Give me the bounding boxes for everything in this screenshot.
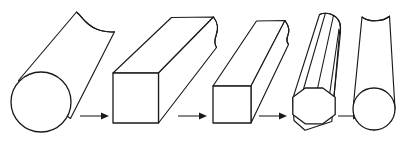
bar-forming-sequence-diagram [0, 0, 412, 142]
arrow-2 [178, 112, 207, 119]
end-face-square-2 [113, 73, 159, 123]
stage-2-square-bar-large [113, 17, 218, 123]
stage-4-octagonal-bar [293, 13, 341, 130]
arrow-3 [259, 112, 287, 119]
arrow-1-head [101, 112, 109, 119]
end-face-circle-5 [353, 88, 395, 130]
end-face-octagon-4 [293, 88, 335, 124]
arrow-3-head [279, 112, 287, 119]
arrow-1 [80, 112, 109, 119]
end-face-circle-1 [11, 72, 71, 132]
stage-1-round-bar-initial [11, 12, 115, 132]
stage-3-square-bar-small [213, 21, 289, 124]
end-face-square-3 [213, 86, 251, 123]
diagram-canvas [0, 0, 412, 142]
stage-5-round-bar-final [353, 16, 395, 130]
arrow-2-head [199, 112, 207, 119]
